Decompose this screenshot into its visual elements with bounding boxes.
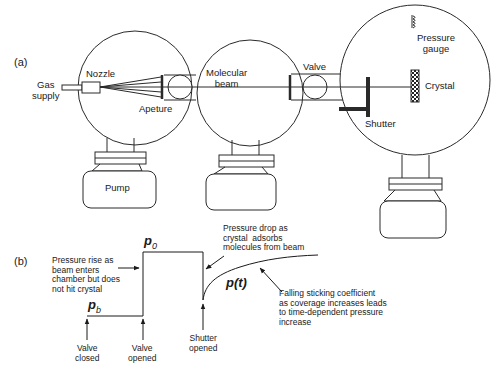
diagram-drawing — [0, 0, 498, 374]
molecular-beam-diagram: (a) Gas supply Nozzle Apeture Molecular … — [0, 0, 498, 374]
falling-note: Falling sticking coefficient as coverage… — [279, 289, 387, 327]
shutter-opened-label: Shutter opened — [189, 334, 217, 353]
nozzle-label: Nozzle — [86, 69, 115, 80]
pt-label: p(t) — [226, 278, 247, 289]
beam-chamber — [197, 40, 303, 210]
drop-note: Pressure drop as crystal adsorbs molecul… — [223, 224, 304, 253]
gas-supply-label: Gas supply — [32, 80, 59, 101]
molecular-beam-label: Molecular beam — [206, 68, 247, 89]
p0-label: p0 — [144, 236, 157, 251]
uhv-chamber — [339, 5, 490, 238]
valve-label: Valve — [303, 62, 326, 73]
pb-label: pb — [88, 300, 101, 315]
valve-closed-label: Valve closed — [75, 344, 100, 363]
pressure-gauge-label: Pressure gauge — [417, 33, 455, 54]
panel-b-label: (b) — [14, 256, 27, 267]
panel-a-label: (a) — [14, 57, 27, 68]
shutter-label: Shutter — [365, 119, 396, 130]
crystal-label: Crystal — [425, 81, 455, 92]
valve-opened-label: Valve opened — [128, 344, 156, 363]
rise-note: Pressure rise as beam enters chamber but… — [52, 256, 120, 294]
pump-label: Pump — [105, 183, 130, 194]
aperture-label: Apeture — [139, 104, 172, 115]
